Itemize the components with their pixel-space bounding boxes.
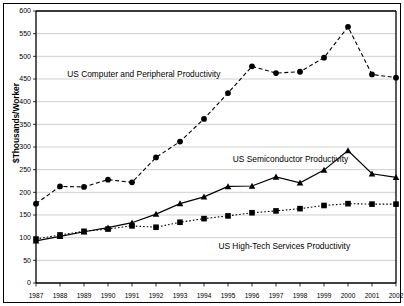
y-tick-label: 350	[19, 121, 31, 128]
y-tick-label: 250	[19, 166, 31, 173]
x-tick-label: 1991	[125, 292, 140, 299]
data-point	[57, 184, 63, 190]
data-point	[297, 206, 303, 212]
series-markers-group	[33, 24, 400, 244]
data-point	[321, 55, 327, 61]
gridlines-group	[36, 11, 396, 260]
data-point	[81, 229, 87, 235]
data-point	[369, 201, 375, 207]
series-annotations-group: US Computer and Peripheral ProductivityU…	[67, 69, 351, 251]
data-point	[225, 90, 231, 96]
x-tick-label: 1988	[53, 292, 68, 299]
data-point	[177, 219, 183, 225]
data-point	[345, 24, 351, 30]
data-point	[321, 203, 327, 209]
data-point	[345, 147, 352, 153]
data-point	[273, 70, 279, 76]
y-tick-label: 400	[19, 98, 31, 105]
data-point	[297, 69, 303, 75]
x-tick-label: 1987	[29, 292, 44, 299]
series-line-1	[36, 151, 396, 241]
data-point	[249, 210, 255, 216]
series-label-0: US Computer and Peripheral Productivity	[67, 69, 221, 79]
x-tick-label: 1994	[197, 292, 212, 299]
data-point	[201, 194, 208, 200]
data-point	[201, 116, 207, 122]
y-axis-tick-labels: 050100150200250300350400450500550600	[19, 7, 36, 286]
y-tick-label: 600	[19, 7, 31, 14]
y-tick-label: 50	[23, 257, 31, 264]
x-axis-tick-labels: 1987198819891990199119921993199419951996…	[29, 292, 404, 299]
data-point	[129, 179, 135, 185]
chart-container: $Thousands/Worker 0501001502002503003504…	[0, 0, 404, 306]
x-tick-label: 1992	[149, 292, 164, 299]
data-point	[153, 155, 159, 161]
series-label-2: US High-Tech Services Productivity	[218, 241, 351, 251]
data-point	[249, 63, 255, 69]
data-point	[129, 223, 135, 229]
data-point	[153, 224, 159, 230]
y-tick-label: 450	[19, 75, 31, 82]
data-point	[105, 177, 111, 183]
x-tick-label: 1995	[221, 292, 236, 299]
x-tick-label: 1999	[317, 292, 332, 299]
data-point	[105, 226, 111, 232]
x-tick-label: 2002	[389, 292, 404, 299]
series-line-2	[36, 204, 396, 239]
y-tick-label: 200	[19, 189, 31, 196]
data-point	[225, 213, 231, 219]
y-tick-label: 300	[19, 143, 31, 150]
data-point	[273, 174, 280, 180]
data-point	[273, 208, 279, 214]
y-tick-label: 150	[19, 211, 31, 218]
data-point	[345, 201, 351, 207]
y-tick-label: 500	[19, 53, 31, 60]
y-tick-label: 0	[27, 279, 31, 286]
data-point	[81, 184, 87, 190]
series-lines-group	[36, 27, 396, 241]
x-tick-label: 2000	[341, 292, 356, 299]
x-tick-label: 1996	[245, 292, 260, 299]
x-tick-label: 1989	[77, 292, 92, 299]
y-tick-label: 100	[19, 234, 31, 241]
y-tick-label: 550	[19, 30, 31, 37]
x-tick-label: 1993	[173, 292, 188, 299]
series-label-1: US Semiconductor Productivity	[233, 154, 349, 164]
data-point	[369, 72, 375, 78]
x-tick-label: 2001	[365, 292, 380, 299]
x-tick-label: 1998	[293, 292, 308, 299]
chart-plot-area: 050100150200250300350400450500550600 198…	[0, 0, 404, 306]
x-tick-label: 1990	[101, 292, 116, 299]
data-point	[153, 211, 160, 217]
data-point	[201, 216, 207, 222]
series-line-0	[36, 27, 396, 204]
x-tick-label: 1997	[269, 292, 284, 299]
data-point	[177, 139, 183, 145]
data-point	[57, 232, 63, 238]
